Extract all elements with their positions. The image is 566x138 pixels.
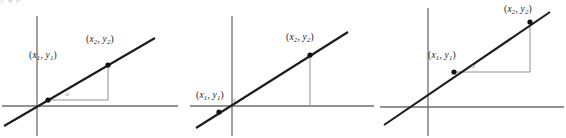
angle-alpha-label: α [65, 90, 69, 98]
slope-line [4, 38, 155, 126]
point-2-label: (x2, y2) [286, 32, 314, 43]
slope-diagram-steeper-line-clipped-top-label: (x1, y1) (x2, y2) α [378, 0, 566, 138]
panel-2-canvas: (x1, y1) (x2, y2) α [188, 0, 378, 138]
point-2-label: (x2, y2) [504, 4, 532, 15]
point-1-marker [216, 109, 221, 114]
slope-diagram-positive-both-points-above-axis: (x1, y1) (x2, y2) α [0, 0, 190, 138]
slope-line [384, 12, 550, 125]
angle-alpha-label: α [471, 62, 475, 70]
point-1-marker [451, 69, 456, 74]
angle-alpha-label: α [232, 96, 236, 104]
panel-3-canvas: (x1, y1) (x2, y2) α [378, 0, 566, 138]
point-2-marker [307, 52, 312, 57]
point-2-marker [527, 19, 532, 24]
panel-1-canvas: (x1, y1) (x2, y2) α [0, 0, 190, 138]
slope-figure-root: y g p (x1, y1) (x2, y2) α (x1, y1) [0, 0, 566, 138]
slope-diagram-first-point-on-x-axis: (x1, y1) (x2, y2) α [188, 0, 378, 138]
point-2-marker [105, 62, 110, 67]
point-1-label: (x1, y1) [196, 90, 224, 101]
point-1-label: (x1, y1) [428, 50, 456, 61]
point-1-marker [45, 97, 50, 102]
point-1-label: (x1, y1) [29, 50, 57, 61]
point-2-label: (x2, y2) [86, 34, 114, 45]
